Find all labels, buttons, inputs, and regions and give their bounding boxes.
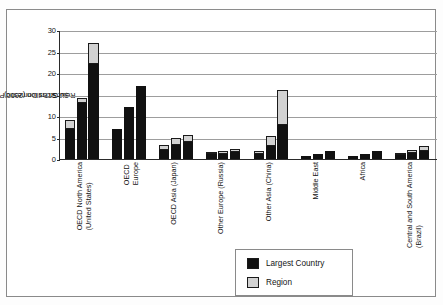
bar-segment-largest-country: [77, 103, 87, 159]
bar-segment-largest-country: [407, 153, 417, 159]
bar-segment-largest-country: [419, 151, 429, 159]
legend-item-largest-country: Largest Country: [247, 258, 324, 269]
bar-segment-largest-country: [159, 150, 169, 159]
stacked-bar: [206, 152, 216, 159]
stacked-bar: [171, 138, 181, 159]
bar-segment-largest-country: [183, 142, 193, 159]
bar-series-container: [60, 31, 437, 159]
stacked-bar: [218, 151, 228, 159]
bar-group: [296, 31, 343, 159]
bar-group: [249, 31, 296, 159]
x-axis-label-text: Other Asia (China): [264, 162, 273, 221]
stacked-bar: [159, 145, 169, 159]
x-axis-label-line-1: Other Europe (Russia): [216, 162, 225, 234]
stacked-bar: [395, 153, 405, 159]
stacked-bar: [419, 146, 429, 159]
bar-segment-region: [171, 138, 181, 145]
x-axis-label-line-2: (United States): [84, 162, 93, 230]
x-axis-label-line-2: Europe: [131, 162, 140, 185]
bar-segment-largest-country: [88, 64, 98, 159]
stacked-bar: [77, 98, 87, 159]
chart-screenshot: Real Gross Domestic Product $U.S. Trilli…: [0, 0, 443, 305]
bar-group: [344, 31, 391, 159]
bar-segment-largest-country: [360, 154, 370, 159]
legend-item-region: Region: [247, 277, 292, 288]
x-axis-label-line-2: (Brazil): [415, 162, 424, 248]
bar-segment-largest-country: [206, 154, 216, 159]
x-axis-label-line-1: OECD: [122, 162, 131, 185]
stacked-bar: [65, 120, 75, 159]
bar-segment-region: [65, 120, 75, 129]
plot-area: 051015202530: [59, 31, 437, 160]
x-axis-label-text: OECD North America(United States): [75, 162, 93, 230]
stacked-bar: [230, 149, 240, 159]
stacked-bar: [88, 43, 98, 159]
bar-segment-region: [277, 90, 287, 124]
y-axis-title: Real Gross Domestic Product $U.S. Trilli…: [17, 31, 47, 160]
stacked-bar: [360, 154, 370, 159]
bar-segment-largest-country: [112, 129, 122, 159]
bar-segment-largest-country: [395, 155, 405, 159]
legend-swatch-largest-country: [247, 258, 259, 269]
y-axis-tick-mark-0: [57, 160, 60, 161]
stacked-bar: [183, 135, 193, 159]
bar-segment-largest-country: [348, 156, 358, 159]
stacked-bar: [254, 151, 264, 159]
bar-segment-largest-country: [301, 156, 311, 159]
bar-group: [155, 31, 202, 159]
stacked-bar: [266, 136, 276, 159]
bar-segment-region: [266, 136, 276, 146]
bar-segment-largest-country: [171, 145, 181, 159]
x-axis-label-text: Middle East: [311, 162, 320, 200]
stacked-bar: [277, 90, 287, 159]
x-axis-label-line-1: Central and South America: [405, 162, 414, 248]
stacked-bar: [313, 154, 323, 159]
stacked-bar: [136, 86, 146, 159]
legend-swatch-region: [247, 277, 259, 288]
stacked-bar: [325, 151, 335, 159]
bar-segment-largest-country: [266, 146, 276, 159]
stacked-bar: [112, 129, 122, 159]
x-axis-label-line-1: Other Asia (China): [264, 162, 273, 221]
bar-segment-region: [88, 43, 98, 65]
x-axis-label-text: Central and South America(Brazil): [405, 162, 423, 248]
stacked-bar: [407, 150, 417, 159]
bar-segment-largest-country: [372, 151, 382, 159]
stacked-bar: [301, 156, 311, 159]
bar-segment-largest-country: [277, 125, 287, 159]
x-axis-label-line-1: OECD Asia (Japan): [169, 162, 178, 225]
bar-segment-largest-country: [230, 152, 240, 159]
bar-segment-largest-country: [313, 154, 323, 159]
bar-segment-largest-country: [124, 107, 134, 159]
bar-segment-largest-country: [325, 151, 335, 159]
x-axis-label-text: OECD Asia (Japan): [169, 162, 178, 225]
x-axis-label-line-1: OECD North America: [75, 162, 84, 230]
x-axis-label-line-1: Africa: [358, 162, 367, 180]
bar-segment-largest-country: [65, 129, 75, 159]
chart-frame: Real Gross Domestic Product $U.S. Trilli…: [6, 9, 436, 297]
bar-group: [202, 31, 249, 159]
bar-segment-largest-country: [218, 154, 228, 159]
bar-segment-largest-country: [254, 154, 264, 159]
legend-label-region: Region: [266, 278, 292, 287]
stacked-bar: [348, 156, 358, 159]
bar-segment-region: [183, 135, 193, 142]
legend-label-largest-country: Largest Country: [266, 259, 324, 268]
x-axis-label-line-1: Middle East: [311, 162, 320, 200]
x-axis-category-labels: OECD North America(United States)OECDEur…: [59, 162, 437, 262]
stacked-bar: [372, 151, 382, 159]
bar-group: [60, 31, 107, 159]
x-axis-label-text: Other Europe (Russia): [216, 162, 225, 234]
x-axis-label-text: OECDEurope: [122, 162, 140, 185]
bar-segment-largest-country: [136, 86, 146, 159]
bar-group: [107, 31, 154, 159]
x-axis-label-text: Africa: [358, 162, 367, 180]
chart-legend: Largest Country Region: [235, 249, 353, 296]
stacked-bar: [124, 107, 134, 159]
bar-group: [391, 31, 438, 159]
